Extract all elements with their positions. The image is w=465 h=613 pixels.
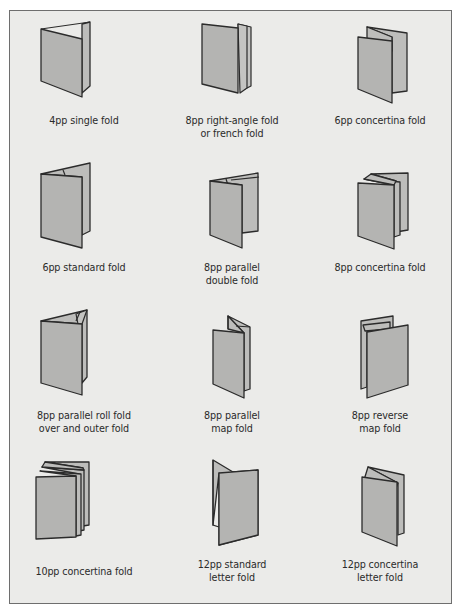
fold-label: 6pp concertina fold <box>306 114 454 127</box>
fold-cell-8pp-right-angle: 8pp right-angle fold or french fold <box>158 11 306 159</box>
roll-fold-icon <box>10 307 158 417</box>
fold-styles-sheet: 4pp single fold 8pp right-angle fold or … <box>9 10 452 604</box>
fold-label: 8pp reverse map fold <box>306 409 454 435</box>
fold-label: 8pp parallel double fold <box>158 261 306 287</box>
standard-fold-icon <box>10 159 158 269</box>
reverse-map-fold-icon <box>306 307 454 417</box>
fold-label: 8pp parallel map fold <box>158 409 306 435</box>
fold-cell-10pp-concertina: 10pp concertina fold <box>10 455 158 603</box>
fold-label: 12pp concertina letter fold <box>306 558 454 584</box>
single-fold-icon <box>10 11 158 121</box>
fold-label: 10pp concertina fold <box>10 565 158 578</box>
fold-cell-8pp-concertina: 8pp concertina fold <box>306 159 454 307</box>
fold-cell-4pp-single: 4pp single fold <box>10 11 158 159</box>
fold-cell-6pp-standard: 6pp standard fold <box>10 159 158 307</box>
fold-cell-8pp-parallel-double: 8pp parallel double fold <box>158 159 306 307</box>
fold-label: 8pp right-angle fold or french fold <box>158 114 306 140</box>
standard-letter-fold-icon <box>158 455 306 565</box>
fold-label: 8pp parallel roll fold over and outer fo… <box>10 409 158 435</box>
concertina-fold-icon <box>306 159 454 269</box>
fold-label: 4pp single fold <box>10 114 158 127</box>
fold-cell-12pp-concertina-letter: 12pp concertina letter fold <box>306 455 454 603</box>
fold-cell-12pp-standard-letter: 12pp standard letter fold <box>158 455 306 603</box>
concertina-fold-icon <box>10 455 158 565</box>
fold-cell-8pp-parallel-roll: 8pp parallel roll fold over and outer fo… <box>10 307 158 455</box>
right-angle-fold-icon <box>158 11 306 121</box>
fold-cell-8pp-parallel-map: 8pp parallel map fold <box>158 307 306 455</box>
fold-label: 8pp concertina fold <box>306 261 454 274</box>
fold-label: 6pp standard fold <box>10 261 158 274</box>
concertina-fold-icon <box>306 11 454 121</box>
fold-cell-8pp-reverse-map: 8pp reverse map fold <box>306 307 454 455</box>
fold-cell-6pp-concertina: 6pp concertina fold <box>306 11 454 159</box>
parallel-map-fold-icon <box>158 307 306 417</box>
parallel-double-fold-icon <box>158 159 306 269</box>
concertina-letter-fold-icon <box>306 455 454 565</box>
fold-label: 12pp standard letter fold <box>158 558 306 584</box>
